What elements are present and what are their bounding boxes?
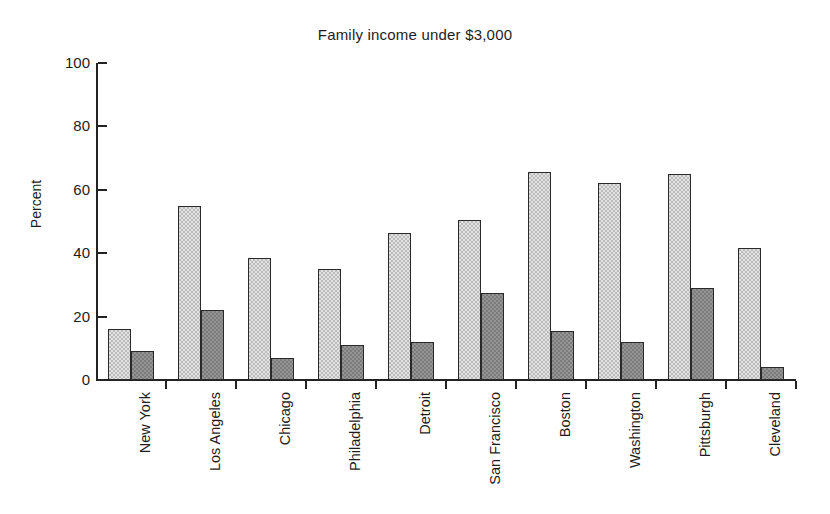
y-tick-mark — [98, 62, 107, 64]
y-tick-label-text: 0 — [48, 371, 90, 388]
x-axis-label-washington: Washington — [627, 392, 643, 468]
y-tick-label: 20 — [40, 308, 90, 324]
bar-philadelphia-light — [318, 269, 341, 380]
y-tick-mark — [98, 125, 107, 127]
y-tick-label-text: 60 — [48, 181, 90, 198]
x-tick-mark — [725, 381, 727, 389]
bar-los-angeles-light — [178, 206, 201, 380]
x-tick-mark — [305, 381, 307, 389]
bar-san-francisco-light — [458, 220, 481, 380]
bar-los-angeles-dark — [201, 310, 224, 380]
y-tick-label: 0 — [40, 371, 90, 387]
x-tick-mark — [585, 381, 587, 389]
x-tick-mark — [655, 381, 657, 389]
bar-new-york-dark — [131, 351, 154, 380]
x-tick-mark — [795, 381, 797, 389]
y-tick-mark — [98, 252, 107, 254]
x-tick-mark — [515, 381, 517, 389]
bar-washington-light — [598, 183, 621, 380]
bar-chicago-light — [248, 258, 271, 380]
x-tick-mark — [165, 381, 167, 389]
y-tick-mark — [98, 316, 107, 318]
bar-detroit-light — [388, 233, 411, 380]
x-tick-mark — [445, 381, 447, 389]
bar-new-york-light — [108, 329, 131, 380]
y-tick-label: 80 — [40, 117, 90, 133]
y-tick-label-text: 40 — [48, 244, 90, 261]
x-tick-mark — [375, 381, 377, 389]
y-axis-spine — [96, 63, 98, 381]
y-tick-label-text: 80 — [48, 117, 90, 134]
bar-boston-light — [528, 172, 551, 380]
y-tick-label-text: 100 — [48, 54, 90, 71]
bar-boston-dark — [551, 331, 574, 380]
y-tick-label-text: 20 — [48, 308, 90, 325]
y-tick-mark — [98, 379, 107, 381]
x-axis-label-pittsburgh: Pittsburgh — [697, 392, 713, 457]
x-axis-label-los-angeles: Los Angeles — [207, 392, 223, 471]
y-tick-label: 60 — [40, 181, 90, 197]
bar-cleveland-light — [738, 248, 761, 380]
bar-washington-dark — [621, 342, 644, 380]
y-tick-label: 40 — [40, 244, 90, 260]
x-axis-label-san-francisco: San Francisco — [487, 392, 503, 485]
bar-pittsburgh-dark — [691, 288, 714, 380]
x-axis-label-cleveland: Cleveland — [767, 392, 783, 457]
x-axis-label-detroit: Detroit — [417, 392, 433, 435]
bar-pittsburgh-light — [668, 174, 691, 380]
bar-san-francisco-dark — [481, 293, 504, 380]
x-axis-label-boston: Boston — [557, 392, 573, 437]
y-tick-mark — [98, 189, 107, 191]
bar-philadelphia-dark — [341, 345, 364, 380]
chart-title: Family income under $3,000 — [0, 26, 830, 43]
bar-detroit-dark — [411, 342, 434, 380]
x-axis-label-new-york: New York — [137, 392, 153, 453]
bar-cleveland-dark — [761, 367, 784, 380]
x-tick-mark — [235, 381, 237, 389]
x-axis-label-chicago: Chicago — [277, 392, 293, 445]
x-axis-label-philadelphia: Philadelphia — [347, 392, 363, 471]
y-tick-label: 100 — [40, 54, 90, 70]
bar-chicago-dark — [271, 358, 294, 380]
chart-figure: Family income under $3,000 Percent 02040… — [0, 0, 830, 514]
y-axis-title: Percent — [28, 164, 44, 244]
